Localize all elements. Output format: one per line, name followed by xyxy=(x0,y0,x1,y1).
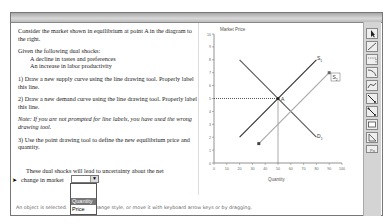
y-axis-label: Market Price xyxy=(220,27,246,32)
s-curve-tool-button[interactable] xyxy=(366,80,378,91)
rectangle-icon xyxy=(367,120,377,129)
dropdown-option-price[interactable]: Price xyxy=(71,206,96,213)
x-tick-90: 90 xyxy=(327,167,331,171)
x-tick-30: 30 xyxy=(250,167,254,171)
point-line-icon xyxy=(367,94,377,103)
step-1: 1) Draw a new supply curve using the lin… xyxy=(18,75,198,90)
status-bar: An object is selected. change style, or … xyxy=(16,205,252,210)
shocks-title: Given the following dual shocks: xyxy=(18,47,100,54)
shock-1: A decline in tastes and preferences xyxy=(18,55,116,62)
more-tool-button[interactable]: Po xyxy=(366,145,378,153)
x-tick-20: 20 xyxy=(238,167,242,171)
s-curve-icon xyxy=(367,81,377,90)
svg-text:Po: Po xyxy=(370,147,376,152)
question-line-2: change in market xyxy=(21,176,64,183)
y-tick-6: 6 xyxy=(209,84,211,88)
dashed-line-icon xyxy=(367,55,377,64)
supply-demand-graph[interactable]: Market Price Quantity 0 1 2 3 4 5 6 7 8 … xyxy=(199,22,367,202)
point-line-tool-2-button[interactable] xyxy=(366,106,378,117)
line-icon xyxy=(367,42,377,51)
instructions-panel: Consider the market shown in equilibrium… xyxy=(18,27,198,156)
x-tick-60: 60 xyxy=(289,167,293,171)
rectangle-tool-button[interactable] xyxy=(366,119,378,130)
question-line-1: These dual shocks will lead to uncertain… xyxy=(26,167,164,174)
curve-tool-button[interactable] xyxy=(366,67,378,78)
x-tick-70: 70 xyxy=(302,167,306,171)
more-icon: Po xyxy=(367,145,377,154)
point-line-icon xyxy=(367,107,377,116)
y-tick-8: 8 xyxy=(209,58,211,62)
y-tick-4: 4 xyxy=(209,110,211,114)
status-left: An object is selected. xyxy=(16,205,67,210)
line-tool-button[interactable] xyxy=(366,41,378,52)
note-text: Note: If you are not prompted for line l… xyxy=(18,115,198,130)
x-tick-100: 100 xyxy=(339,167,345,171)
polygon-tool-button[interactable] xyxy=(366,132,378,143)
dashed-line-tool-button[interactable] xyxy=(366,54,378,65)
status-right: change style, or move it with keyboard a… xyxy=(92,205,252,210)
select-tool-button[interactable] xyxy=(366,28,378,39)
y-tick-1: 1 xyxy=(209,149,211,153)
y-tick-2: 2 xyxy=(209,136,211,140)
point-a-label: A xyxy=(281,96,285,102)
y-tick-10: 10 xyxy=(207,33,211,37)
step-2: 2) Draw a new demand curve using the lin… xyxy=(18,95,198,110)
step-3: 3) Use the point drawing tool to define … xyxy=(18,136,198,151)
dropdown-option-quantity[interactable]: Quantity xyxy=(71,198,96,205)
x-tick-80: 80 xyxy=(314,167,318,171)
x-axis-label: Quantity xyxy=(268,177,286,182)
chevron-down-icon[interactable]: ▼ xyxy=(90,176,98,182)
y-tick-3: 3 xyxy=(209,123,211,127)
shocks-block: Given the following dual shocks: A decli… xyxy=(18,47,198,70)
y-tick-5: 5 xyxy=(209,97,211,101)
equilibrium-point-a[interactable] xyxy=(277,97,280,100)
shock-2: An increase in labor productivity xyxy=(18,62,112,69)
s1-label: S1 xyxy=(317,55,322,63)
y-tick-0: 0 xyxy=(209,162,211,166)
market-change-dropdown: Quantity Price xyxy=(70,183,97,215)
x-tick-40: 40 xyxy=(263,167,267,171)
dropdown-option-blank[interactable] xyxy=(71,184,96,191)
s2-endpoint-handle[interactable] xyxy=(328,71,331,74)
x-tick-50: 50 xyxy=(276,167,280,171)
drawing-toolbar: Po xyxy=(363,22,381,216)
polygon-icon xyxy=(367,133,377,142)
market-change-select[interactable]: ▼ xyxy=(71,175,99,183)
curve-icon xyxy=(367,68,377,77)
intro-text: Consider the market shown in equilibrium… xyxy=(18,27,198,42)
assessment-frame: Consider the market shown in equilibrium… xyxy=(10,12,383,216)
d1-label: D1 xyxy=(317,133,323,141)
cursor-arrow-icon xyxy=(367,29,377,38)
s2-endpoint-handle[interactable] xyxy=(257,142,260,145)
y-tick-7: 7 xyxy=(209,71,211,75)
x-tick-10: 10 xyxy=(225,167,229,171)
y-tick-9: 9 xyxy=(209,45,211,49)
question-pointer-icon: ➤ xyxy=(12,176,17,183)
point-line-tool-button[interactable] xyxy=(366,93,378,104)
x-tick-0: 0 xyxy=(213,167,215,171)
